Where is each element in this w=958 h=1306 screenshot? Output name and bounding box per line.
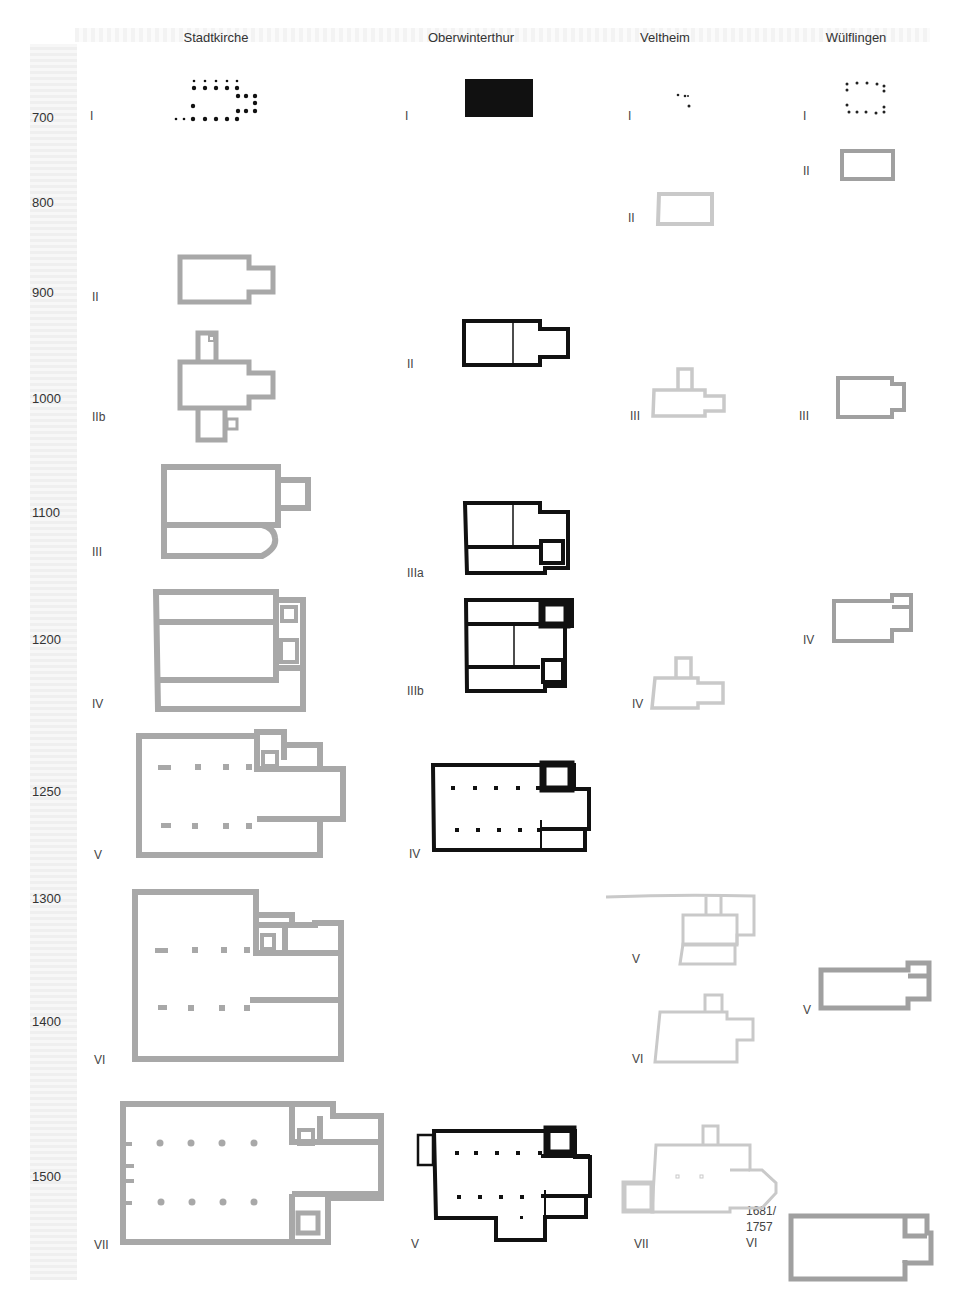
oberwinterthur-phase-iiia-plan	[465, 503, 568, 573]
wuelflingen-phase-vi-plan	[791, 1216, 931, 1279]
veltheim-phase-iv-plan	[652, 658, 723, 708]
stadtkirche-phase-iv-plan	[156, 592, 303, 709]
stadtkirche-phase-ii-plan	[180, 257, 273, 302]
stadtkirche-phase-vi-plan	[135, 892, 341, 1059]
stadtkirche-phase-iii-plan	[164, 467, 308, 556]
veltheim-phase-vi-plan	[655, 995, 753, 1062]
stadtkirche-phase-vii-pillars	[126, 1140, 258, 1206]
oberwinterthur-phase-iiib-plan	[466, 600, 572, 691]
stadtkirche-phase-i-plan	[175, 80, 258, 122]
wuelflingen-phase-iv-plan	[834, 595, 911, 641]
wuelflingen-phase-v-plan	[821, 963, 929, 1008]
floor-plans	[0, 0, 958, 1306]
veltheim-phase-iii-plan	[653, 369, 724, 416]
wuelflingen-plans	[791, 82, 931, 1280]
oberwinterthur-phase-v-pillars	[455, 1151, 542, 1219]
oberwinterthur-phase-v-plan	[418, 1129, 590, 1240]
oberwinterthur-phase-i-plan	[465, 79, 533, 117]
veltheim-phase-ii-plan	[658, 194, 712, 224]
veltheim-plans	[606, 94, 776, 1212]
stadtkirche-phase-iib-plan	[180, 333, 273, 440]
veltheim-phase-v-plan	[606, 895, 754, 964]
veltheim-phase-i-plan	[677, 94, 691, 108]
stadtkirche-phase-vi-pillars	[155, 947, 250, 1011]
stadtkirche-phase-v-pillars	[158, 764, 252, 829]
oberwinterthur-phase-iv-pillars	[451, 786, 541, 832]
stadtkirche-phase-v-plan	[139, 732, 343, 855]
wuelflingen-phase-iii-plan	[838, 378, 904, 417]
veltheim-phase-vii-plan	[624, 1126, 776, 1212]
oberwinterthur-plans	[418, 79, 590, 1240]
wuelflingen-phase-ii-plan	[842, 151, 893, 179]
wuelflingen-phase-i-plan	[846, 82, 886, 115]
oberwinterthur-phase-ii-plan	[464, 321, 568, 365]
oberwinterthur-phase-iv-plan	[433, 764, 589, 850]
stadtkirche-plans	[123, 80, 381, 1242]
stadtkirche-phase-vii-plan	[123, 1104, 381, 1242]
